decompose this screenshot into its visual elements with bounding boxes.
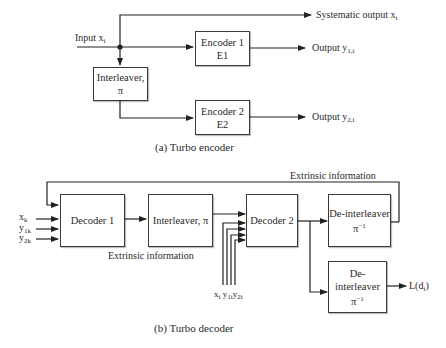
deinterleaver-bottom-title: De-interleaver [329, 267, 386, 293]
decoder-interleaver-box: Interleaver, π [148, 194, 213, 247]
deinterleaver-bottom-symbol: π−1 [351, 293, 364, 308]
decoder1-title: Decoder 1 [71, 214, 114, 227]
encoder2-id: E2 [217, 118, 229, 131]
encoder2-box: Encoder 2 E2 [195, 100, 250, 135]
output2-label: Output y2,i [312, 111, 354, 126]
encoder1-title: Encoder 1 [201, 36, 244, 49]
encoder2-title: Encoder 2 [201, 105, 244, 118]
encoder-caption: (a) Turbo encoder [155, 141, 234, 153]
interleaver-title: Interleaver, [97, 71, 145, 84]
input-y2k-label: y2k [19, 232, 31, 247]
decoder1-box: Decoder 1 [60, 194, 125, 247]
feedback-extrinsic-label: Extrinsic information [290, 170, 376, 182]
decoder2-title: Decoder 2 [250, 214, 293, 227]
encoder-interleaver-box: Interleaver, π [93, 67, 148, 101]
decoder-caption: (b) Turbo decoder [154, 322, 233, 334]
deinterleaver-bottom-box: De-interleaver π−1 [328, 261, 387, 313]
encoder1-id: E1 [217, 49, 229, 62]
deinterleaver-top-symbol: π−1 [353, 220, 366, 235]
deinterleaver-top-title: De-interleaver [329, 207, 390, 220]
input-label: Input xi [75, 32, 106, 47]
decoder2-box: Decoder 2 [246, 194, 298, 247]
output1-label: Output y1,i [312, 42, 354, 57]
interleaver-symbol: π [118, 84, 123, 97]
bottom-inputs-label: xi y1iy2i [214, 288, 243, 303]
llr-output-label: L(di) [409, 280, 429, 295]
systematic-output-label: Systematic output xi [316, 9, 397, 24]
extrinsic-info-label: Extrinsic information [108, 250, 194, 262]
encoder1-box: Encoder 1 E1 [195, 31, 250, 66]
decoder-interleaver-title: Interleaver, π [153, 214, 209, 227]
deinterleaver-top-box: De-interleaver π−1 [328, 194, 391, 247]
